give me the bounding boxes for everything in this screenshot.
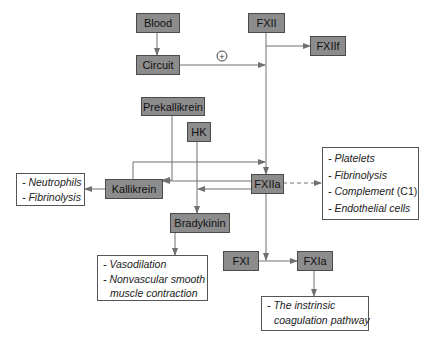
note-item-intrinsic: - The instrinsic — [267, 298, 363, 313]
note-fxia-effects: - The instrinsic coagulation pathway — [261, 296, 369, 331]
node-kallikrein: Kallikrein — [105, 179, 163, 199]
note-item-fibrinolysis: - Fibrinolysis — [22, 190, 79, 205]
node-circuit: Circuit — [136, 55, 180, 75]
node-prekallikrein: Prekallikrein — [141, 97, 205, 116]
node-hk: HK — [187, 122, 211, 142]
note-item-neutrophils: - Neutrophils — [22, 175, 79, 190]
diagram-canvas: + Blood Circuit FXII FXIIf Prekallikrein… — [0, 0, 432, 341]
note-item-vasodilation: - Vasodilation — [103, 257, 202, 272]
node-fxiif: FXIIf — [310, 36, 346, 56]
note-item-complement: - Complement (C1) — [328, 183, 413, 200]
note-item-platelets: - Platelets — [328, 150, 413, 167]
node-fxi: FXI — [223, 251, 259, 271]
note-kallikrein-effects: - Neutrophils - Fibrinolysis — [16, 173, 85, 206]
arrow-kallikrein-fxii — [133, 162, 265, 179]
complement-label: - Complement — [328, 185, 397, 197]
node-fxia: FXIa — [297, 251, 333, 271]
note-item-fibrinolysis: - Fibrinolysis — [328, 167, 413, 184]
note-item-muscle: muscle contraction — [103, 286, 202, 301]
note-fxiia-effects: - Platelets - Fibrinolysis - Complement … — [322, 147, 419, 220]
note-item-nonvascular: - Nonvascular smooth — [103, 272, 202, 287]
complement-c1: (C1) — [397, 185, 417, 197]
arrow-prekallikrein-kallikrein — [163, 115, 172, 180]
node-fxiia: FXIIa — [251, 174, 284, 194]
node-blood: Blood — [136, 13, 180, 33]
node-bradykinin: Bradykinin — [170, 213, 230, 233]
node-fxii: FXII — [248, 13, 285, 33]
note-bradykinin-effects: - Vasodilation - Nonvascular smooth musc… — [97, 255, 208, 301]
note-item-endothelial: - Endothelial cells — [328, 200, 413, 217]
plus-symbol: + — [219, 52, 224, 62]
note-item-coagulation: coagulation pathway — [267, 313, 363, 328]
